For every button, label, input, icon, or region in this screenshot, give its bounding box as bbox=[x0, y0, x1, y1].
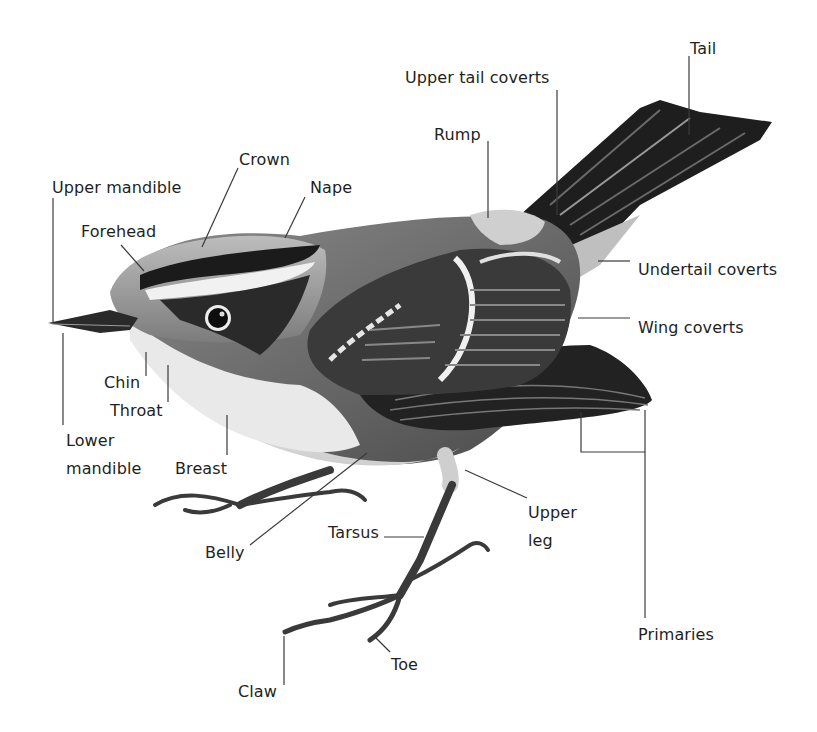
label-toe: Toe bbox=[391, 655, 418, 674]
label-throat: Throat bbox=[110, 401, 163, 420]
label-upper-tail-coverts: Upper tail coverts bbox=[405, 68, 549, 87]
label-claw: Claw bbox=[238, 682, 277, 701]
label-undertail-coverts: Undertail coverts bbox=[638, 260, 777, 279]
label-crown: Crown bbox=[239, 150, 290, 169]
label-nape: Nape bbox=[310, 178, 352, 197]
label-chin: Chin bbox=[104, 373, 140, 392]
label-upper-leg-line1: Upper bbox=[528, 503, 577, 522]
bird-anatomy-diagram: Crown Upper mandible Nape Forehead Rump … bbox=[0, 0, 817, 732]
label-belly: Belly bbox=[205, 543, 245, 562]
label-upper-mandible: Upper mandible bbox=[52, 178, 182, 197]
label-lower-mandible-line2: mandible bbox=[66, 459, 141, 478]
leader-primaries-a bbox=[581, 412, 645, 452]
label-rump: Rump bbox=[434, 125, 481, 144]
label-lower-mandible-line1: Lower bbox=[66, 431, 114, 450]
leader-upper-leg bbox=[465, 470, 527, 498]
leader-nape bbox=[285, 197, 305, 238]
label-upper-leg-line2: leg bbox=[528, 531, 553, 550]
leader-toe bbox=[373, 635, 390, 652]
label-breast: Breast bbox=[175, 459, 227, 478]
label-tarsus: Tarsus bbox=[328, 523, 379, 542]
label-primaries: Primaries bbox=[638, 625, 714, 644]
label-wing-coverts: Wing coverts bbox=[638, 318, 744, 337]
label-tail: Tail bbox=[690, 39, 716, 58]
label-forehead: Forehead bbox=[81, 222, 156, 241]
bird-illustration bbox=[0, 0, 817, 732]
